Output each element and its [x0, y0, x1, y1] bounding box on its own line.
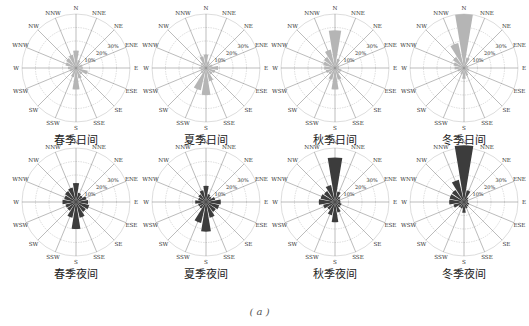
direction-label: SW [29, 241, 39, 247]
direction-label: SSE [93, 254, 105, 260]
direction-label: NNE [222, 144, 236, 150]
direction-label: SE [114, 241, 122, 247]
direction-label: NE [373, 157, 382, 163]
ring-label: 20% [226, 184, 237, 190]
direction-label: NW [158, 157, 169, 163]
ring-label: 10% [344, 57, 355, 63]
ring-label: 30% [496, 177, 507, 183]
wind-rose-3: NNNENEENEEESESESSESSSWSWWSWWWNWNWNNW10%2… [270, 0, 400, 148]
wind-rose-2: NNNENEENEEESESESSESSSWSWWSWWWNWNWNNW10%2… [141, 0, 271, 148]
direction-label: ENE [125, 42, 138, 48]
direction-label: SE [373, 241, 381, 247]
chart-title: 夏季夜间 [141, 265, 271, 281]
chart-title: 秋季夜间 [270, 265, 400, 281]
direction-label: W [401, 65, 407, 71]
direction-label: W [143, 65, 149, 71]
direction-label: ENE [255, 42, 268, 48]
direction-label: ESE [384, 222, 396, 228]
direction-label: WSW [401, 222, 417, 228]
direction-label: WNW [400, 176, 417, 182]
direction-label: E [134, 65, 138, 71]
direction-label: ESE [513, 88, 525, 94]
direction-label: NNW [175, 144, 191, 150]
direction-label: N [462, 139, 467, 145]
direction-label: WSW [401, 88, 417, 94]
direction-label: N [333, 139, 338, 145]
direction-label: SSW [305, 254, 319, 260]
direction-label: N [333, 5, 338, 11]
direction-label: ENE [513, 176, 526, 182]
ring-label: 10% [85, 57, 96, 63]
direction-label: SE [244, 107, 252, 113]
direction-label: ESE [125, 222, 137, 228]
direction-label: SW [417, 107, 427, 113]
direction-label: N [462, 5, 467, 11]
direction-label: WSW [143, 222, 159, 228]
ring-label: 30% [108, 43, 119, 49]
direction-label: SE [114, 107, 122, 113]
direction-label: W [272, 199, 278, 205]
direction-label: E [264, 199, 268, 205]
direction-label: SE [373, 107, 381, 113]
wind-rose-6: NNNENEENEEESESESSESSSWSWWSWWWNWNWNNW10%2… [141, 132, 271, 282]
direction-label: SW [288, 107, 298, 113]
direction-label: NNW [304, 10, 320, 16]
figure-label: ( a ) [0, 306, 519, 317]
ring-label: 30% [238, 43, 249, 49]
ring-label: 30% [238, 177, 249, 183]
direction-label: WNW [12, 42, 29, 48]
direction-label: W [13, 65, 19, 71]
direction-label: WSW [13, 88, 29, 94]
direction-label: ESE [255, 88, 267, 94]
direction-label: NE [502, 23, 511, 29]
direction-label: E [393, 199, 397, 205]
direction-label: E [522, 199, 526, 205]
direction-label: WNW [142, 176, 159, 182]
direction-label: SE [244, 241, 252, 247]
direction-label: ESE [125, 88, 137, 94]
ring-label: 30% [367, 43, 378, 49]
direction-label: NE [502, 157, 511, 163]
direction-label: NE [114, 157, 123, 163]
ring-label: 10% [85, 191, 96, 197]
direction-label: SSW [434, 120, 448, 126]
direction-label: WSW [13, 222, 29, 228]
direction-label: SSE [481, 254, 493, 260]
direction-label: W [13, 199, 19, 205]
direction-label: SSW [176, 254, 190, 260]
ring-label: 10% [473, 57, 484, 63]
ring-label: 30% [108, 177, 119, 183]
direction-label: NNE [351, 10, 365, 16]
direction-label: NW [28, 23, 39, 29]
ring-label: 10% [215, 191, 226, 197]
direction-label: NW [287, 157, 298, 163]
ring-label: 10% [473, 191, 484, 197]
direction-label: WNW [271, 176, 288, 182]
direction-label: SSE [352, 120, 364, 126]
direction-label: ESE [255, 222, 267, 228]
direction-label: WNW [12, 176, 29, 182]
direction-label: N [204, 139, 209, 145]
wind-rose-8: NNNENEENEEESESESSESSSWSWWSWWWNWNWNNW10%2… [399, 132, 529, 282]
direction-label: E [134, 199, 138, 205]
ring-label: 20% [355, 184, 366, 190]
direction-label: NNE [480, 10, 494, 16]
direction-label: NNW [433, 10, 449, 16]
direction-label: E [522, 65, 526, 71]
ring-label: 20% [96, 184, 107, 190]
ring-label: 30% [367, 177, 378, 183]
direction-label: NW [158, 23, 169, 29]
ring-label: 10% [344, 191, 355, 197]
direction-label: NNW [175, 10, 191, 16]
direction-label: NNW [45, 10, 61, 16]
direction-label: SW [417, 241, 427, 247]
direction-label: NNW [45, 144, 61, 150]
direction-label: SSE [93, 120, 105, 126]
direction-label: SSE [223, 254, 235, 260]
ring-label: 20% [484, 50, 495, 56]
wind-rose-5: NNNENEENEEESESESSESSSWSWWSWWWNWNWNNW10%2… [11, 132, 141, 282]
direction-label: N [74, 139, 79, 145]
direction-label: SW [159, 241, 169, 247]
direction-label: ENE [513, 42, 526, 48]
chart-title: 冬季夜间 [399, 265, 529, 281]
